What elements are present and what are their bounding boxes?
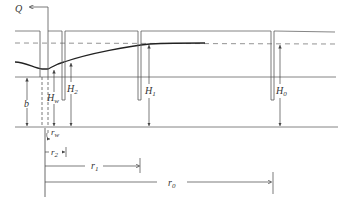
discharge-label: Q <box>15 3 23 14</box>
h0-label: H0 <box>275 85 287 98</box>
rw-dimension <box>47 130 50 139</box>
observation-well-1 <box>138 31 141 100</box>
observation-well-0 <box>271 31 274 100</box>
h1-label: H1 <box>144 85 156 98</box>
r1-label: r1 <box>91 160 98 173</box>
aquifer-diagram: Q b Hw H2 H1 <box>0 0 349 202</box>
r0-dimension <box>45 172 273 194</box>
h2-label: H2 <box>66 83 78 96</box>
thickness-label: b <box>24 98 29 109</box>
drawdown-curve <box>15 43 205 69</box>
rw-label: rw <box>51 127 60 139</box>
r0-label: r0 <box>168 177 176 190</box>
ground-surface-line <box>15 31 335 32</box>
observation-well-2 <box>62 31 65 100</box>
r2-label: r2 <box>51 147 59 159</box>
